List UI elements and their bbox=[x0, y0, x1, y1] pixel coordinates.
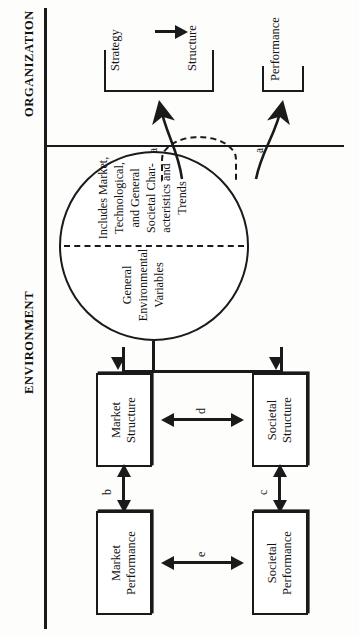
boundary-crossing-arrows bbox=[120, 87, 320, 197]
edge-e-arrowhead-start bbox=[161, 556, 174, 570]
trunk-arrowhead-market-structure bbox=[111, 357, 125, 370]
edge-c-arrowhead-end bbox=[231, 413, 244, 427]
box-market-structure-line2: Structure bbox=[124, 397, 139, 443]
edge-e-shaft bbox=[172, 561, 232, 564]
edge-c-arrowhead-start bbox=[161, 413, 174, 427]
arrow-a-to-strategy-structure bbox=[160, 105, 182, 179]
trunk-arrowhead-societal-structure bbox=[269, 357, 283, 370]
edge-label-a-strategy: a bbox=[147, 148, 159, 153]
strategy-to-structure-arrowhead bbox=[175, 25, 188, 39]
trunk-stem bbox=[152, 341, 155, 371]
edge-label-c: d bbox=[194, 408, 209, 414]
arrow-a-to-performance bbox=[256, 105, 282, 179]
edge-label-e: e bbox=[194, 552, 209, 557]
box-market-performance[interactable]: Market Performance bbox=[96, 511, 152, 615]
organization-section-label: ORGANIZATION bbox=[22, 10, 37, 117]
diagram-canvas: ENVIRONMENT ORGANIZATION Market Performa… bbox=[0, 0, 359, 637]
box-market-performance-line1: Market bbox=[109, 545, 124, 581]
edge-label-d: c bbox=[256, 490, 271, 495]
edge-d-arrowhead-end bbox=[273, 464, 287, 477]
edge-e-arrowhead-end bbox=[231, 556, 244, 570]
box-market-structure[interactable]: Market Structure bbox=[96, 373, 152, 467]
box-societal-structure[interactable]: Societal Structure bbox=[252, 373, 308, 467]
edge-b-arrowhead-start bbox=[117, 500, 131, 513]
edge-c-shaft bbox=[172, 418, 232, 421]
edge-d-arrowhead-start bbox=[273, 500, 287, 513]
environment-section-label: ENVIRONMENT bbox=[22, 291, 37, 394]
box-market-structure-line1: Market bbox=[109, 402, 124, 438]
box-market-performance-line2: Performance bbox=[124, 531, 139, 595]
edge-label-b: b bbox=[100, 489, 115, 495]
trunk-spine bbox=[122, 370, 282, 373]
box-societal-performance-line1: Societal bbox=[265, 543, 280, 583]
strategy-label: Strategy bbox=[108, 29, 123, 71]
strategy-to-structure-shaft bbox=[155, 30, 177, 33]
edge-label-a-performance: a bbox=[253, 148, 265, 153]
box-societal-structure-line2: Structure bbox=[280, 397, 295, 443]
box-societal-performance-line2: Performance bbox=[280, 531, 295, 595]
edge-b-arrowhead-end bbox=[117, 464, 131, 477]
circle-primary-text: General Environmental Variables bbox=[120, 243, 168, 327]
environment-boundary-line bbox=[44, 8, 47, 629]
performance-label: Performance bbox=[268, 17, 283, 81]
box-societal-structure-line1: Societal bbox=[265, 400, 280, 440]
box-societal-performance[interactable]: Societal Performance bbox=[252, 511, 308, 615]
